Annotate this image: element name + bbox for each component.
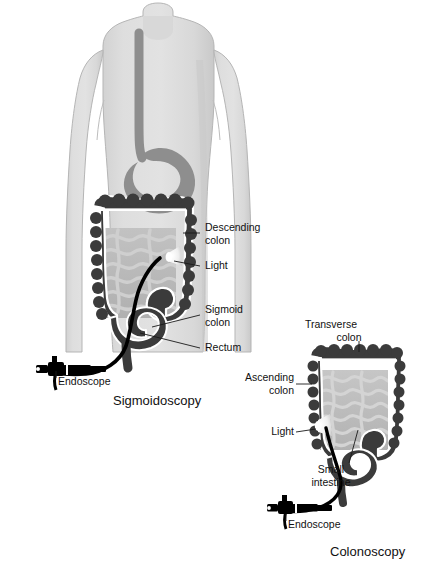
light-source-left: [166, 252, 173, 262]
anatomical-illustration: Descending colon Light Sigmoid colon Rec…: [0, 0, 442, 577]
label-small-intestine-line1: Small: [318, 463, 344, 475]
esophagus: [139, 33, 142, 158]
endoscope-tip-left: [90, 366, 106, 372]
endoscope-port-right: [267, 506, 271, 510]
endoscope-band-right: [295, 502, 297, 513]
label-endoscope-right: Endoscope: [288, 518, 341, 530]
endoscope-handle-right: [278, 501, 293, 514]
label-endoscope-left: Endoscope: [58, 375, 111, 387]
label-ascending-colon-line1: Ascending: [245, 371, 294, 383]
label-ascending-colon-line2: colon: [269, 384, 294, 396]
label-sigmoid-colon-line2: colon: [205, 316, 230, 328]
caption-sigmoidoscopy: Sigmoidoscopy: [113, 393, 202, 408]
label-descending-colon-line1: Descending: [205, 221, 261, 233]
endoscope-knob-left: [52, 356, 57, 364]
label-small-intestine-line2: intestine: [311, 476, 350, 488]
caption-colonoscopy: Colonoscopy: [330, 544, 406, 559]
label-sigmoid-colon-line1: Sigmoid: [205, 303, 243, 315]
label-descending-colon-line2: colon: [205, 234, 230, 246]
label-rectum: Rectum: [205, 341, 241, 353]
illustration-canvas: Descending colon Light Sigmoid colon Rec…: [0, 0, 442, 577]
endoscope-knob-right: [282, 495, 287, 502]
label-transverse-colon-line1: Transverse: [305, 318, 357, 330]
neck-shading: [143, 16, 173, 40]
endoscope-band-left: [66, 363, 68, 375]
label-light-right: Light: [271, 425, 294, 437]
endoscope-port-left: [36, 367, 40, 371]
label-transverse-colon-line2: colon: [336, 331, 361, 343]
label-light-left: Light: [205, 259, 228, 271]
endoscope-tip-right: [317, 505, 332, 511]
light-source-right: [315, 421, 321, 431]
